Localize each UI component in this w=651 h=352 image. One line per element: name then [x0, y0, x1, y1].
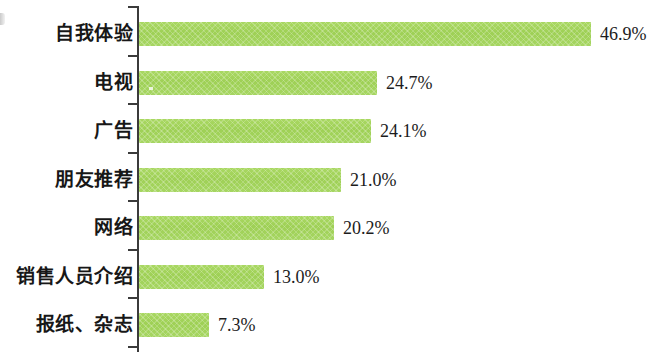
bar[interactable]: [139, 119, 371, 143]
chart-bar-row: 销售人员介绍13.0%: [0, 253, 651, 301]
chart-bar-row: 广告24.1%: [0, 107, 651, 155]
bar-value-label: 24.1%: [380, 119, 427, 143]
chart-bar-row: 朋友推荐21.0%: [0, 156, 651, 204]
chart-bar-row: 报纸、杂志7.3%: [0, 301, 651, 349]
bar-value-label: 46.9%: [600, 22, 647, 46]
category-label: 网络: [94, 204, 133, 252]
chart-figure: 自我体验46.9%电视24.7%广告24.1%朋友推荐21.0%网络20.2%销…: [0, 0, 651, 352]
bar-value-label: 13.0%: [273, 265, 320, 289]
bar-value-label: 21.0%: [350, 168, 397, 192]
chart-bar-row: 自我体验46.9%: [0, 10, 651, 58]
bar[interactable]: [139, 313, 209, 337]
bar[interactable]: [139, 22, 591, 46]
category-label: 朋友推荐: [55, 156, 133, 204]
category-label: 电视: [94, 59, 133, 107]
chart-bar-row: 网络20.2%: [0, 204, 651, 252]
plot-area: 自我体验46.9%电视24.7%广告24.1%朋友推荐21.0%网络20.2%销…: [0, 0, 651, 352]
bar-value-label: 20.2%: [343, 216, 390, 240]
bar-value-label: 7.3%: [218, 313, 256, 337]
bar[interactable]: [139, 168, 341, 192]
bar[interactable]: [139, 265, 264, 289]
bar[interactable]: [139, 216, 334, 240]
chart-bar-row: 电视24.7%: [0, 59, 651, 107]
scan-speck-artifact: [149, 87, 153, 90]
bar-value-label: 24.7%: [386, 71, 433, 95]
bar[interactable]: [139, 71, 377, 95]
category-label: 广告: [94, 107, 133, 155]
category-label: 报纸、杂志: [36, 301, 134, 349]
category-label: 销售人员介绍: [16, 253, 133, 301]
category-label: 自我体验: [55, 10, 133, 58]
